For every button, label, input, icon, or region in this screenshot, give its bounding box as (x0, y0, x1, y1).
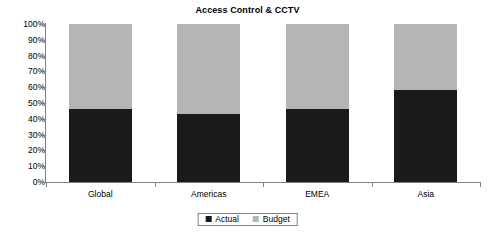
x-axis-tick-mark (372, 183, 373, 187)
y-axis-tick-label: 30% (5, 130, 45, 139)
y-axis-tick-label: 70% (5, 67, 45, 76)
y-axis-tick-label: 90% (5, 36, 45, 45)
bar-segment-budget[interactable] (69, 24, 132, 109)
bar-segment-actual[interactable] (69, 109, 132, 182)
bar-group[interactable] (394, 24, 457, 182)
x-axis-category-label: Global (46, 190, 155, 199)
y-axis-tick-label: 60% (5, 83, 45, 92)
bar-group[interactable] (69, 24, 132, 182)
y-axis-tick-label: 80% (5, 51, 45, 60)
y-axis-tick-label: 0% (5, 178, 45, 187)
legend-swatch-actual-icon (205, 216, 211, 222)
bar-segment-budget[interactable] (394, 24, 457, 90)
x-axis-tick-mark (480, 183, 481, 187)
legend-item-actual[interactable]: Actual (205, 215, 239, 224)
legend-swatch-budget-icon (253, 216, 259, 222)
bar-segment-actual[interactable] (286, 109, 349, 182)
chart-container: Access Control & CCTV 0%10%20%30%40%50%6… (0, 0, 495, 238)
x-axis-tick-mark (46, 183, 47, 187)
y-axis-tick-label: 40% (5, 115, 45, 124)
x-axis-tick-mark (155, 183, 156, 187)
bar-segment-actual[interactable] (177, 114, 240, 182)
legend-label-actual: Actual (215, 215, 239, 224)
y-axis-tick-label: 100% (5, 20, 45, 29)
bar-group[interactable] (177, 24, 240, 182)
x-axis-category-label: Americas (155, 190, 264, 199)
y-axis-tick-label: 20% (5, 146, 45, 155)
y-axis: 0%10%20%30%40%50%60%70%80%90%100% (0, 0, 45, 238)
chart-title: Access Control & CCTV (0, 5, 495, 15)
bar-segment-actual[interactable] (394, 90, 457, 182)
bar-segment-budget[interactable] (177, 24, 240, 114)
legend-label-budget: Budget (263, 215, 290, 224)
bar-segment-budget[interactable] (286, 24, 349, 109)
chart-legend: Actual Budget (197, 213, 298, 226)
x-axis-tick-mark (263, 183, 264, 187)
x-axis-category-label: Asia (372, 190, 481, 199)
legend-item-budget[interactable]: Budget (253, 215, 290, 224)
x-axis-category-label: EMEA (263, 190, 372, 199)
bar-group[interactable] (286, 24, 349, 182)
y-axis-tick-label: 50% (5, 99, 45, 108)
y-axis-tick-label: 10% (5, 162, 45, 171)
plot-area (46, 24, 480, 182)
